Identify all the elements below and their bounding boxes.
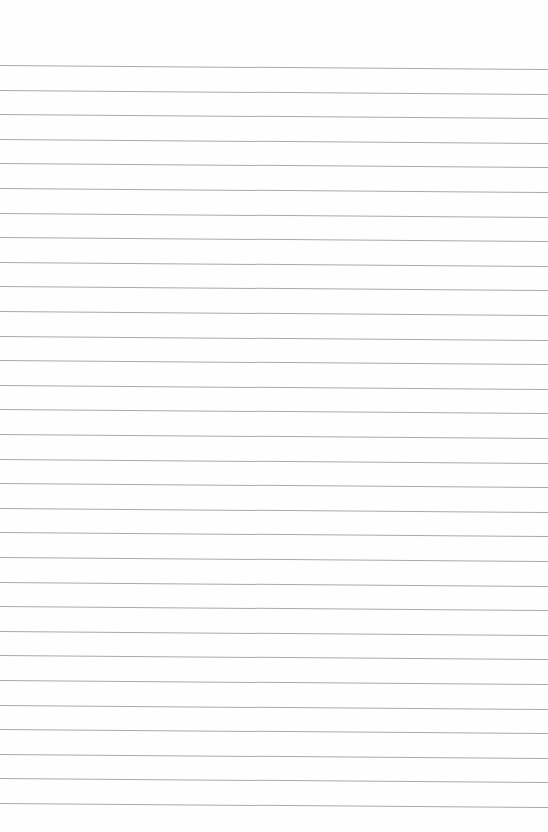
ruled-line [0, 90, 548, 95]
ruled-line [0, 409, 548, 414]
ruled-line [0, 631, 548, 636]
ruled-line [0, 139, 548, 144]
ruled-line [0, 803, 548, 808]
ruled-line [0, 114, 548, 119]
ruled-line [0, 729, 548, 734]
ruled-line [0, 65, 548, 70]
ruled-line [0, 508, 548, 513]
ruled-line [0, 262, 548, 267]
ruled-line [0, 582, 548, 587]
ruled-line [0, 336, 548, 341]
ruled-line [0, 434, 548, 439]
ruled-line [0, 360, 548, 365]
ruled-line [0, 778, 548, 783]
ruled-line [0, 385, 548, 390]
ruled-line [0, 237, 548, 242]
ruled-line [0, 311, 548, 316]
ruled-line [0, 606, 548, 611]
ruled-line [0, 459, 548, 464]
ruled-line [0, 188, 548, 193]
ruled-line [0, 557, 548, 562]
ruled-line [0, 754, 548, 759]
ruled-line [0, 532, 548, 537]
ruled-line [0, 213, 548, 218]
ruled-line [0, 163, 548, 168]
ruled-line [0, 483, 548, 488]
ruled-line [0, 655, 548, 660]
ruled-line [0, 705, 548, 710]
ruled-line [0, 680, 548, 685]
ruled-line [0, 286, 548, 291]
